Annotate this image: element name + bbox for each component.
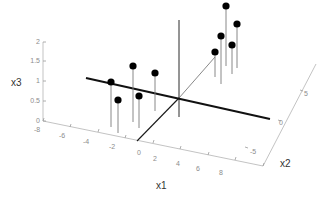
x2-axis <box>263 64 316 166</box>
stem-point <box>107 78 114 127</box>
stem-marker <box>233 20 240 27</box>
stem-marker <box>114 96 121 103</box>
svg-text:-8: -8 <box>34 126 40 133</box>
stem-marker <box>222 2 229 9</box>
x2-label: x2 <box>280 158 291 169</box>
svg-text:-4: -4 <box>83 138 89 145</box>
x2-reference-line-front <box>137 98 179 141</box>
x1-tick-labels: -8 -6 -4 -2 0 2 4 6 8 <box>34 126 223 176</box>
stem-point <box>211 48 218 77</box>
x3-tick-labels: 0 0.5 1 1.5 2 <box>30 38 40 124</box>
svg-text:0.5: 0.5 <box>30 97 40 104</box>
stem-point <box>151 69 158 111</box>
x3-ticks <box>43 42 46 121</box>
x2-tick-labels: -5 0 5 <box>250 90 308 155</box>
svg-text:1.5: 1.5 <box>30 57 40 64</box>
svg-text:-5: -5 <box>250 148 256 155</box>
svg-text:8: 8 <box>219 169 223 176</box>
stem3-plot: 0 0.5 1 1.5 2 -8 -6 -4 -2 0 2 4 6 <box>0 0 320 197</box>
stem-marker <box>217 32 224 39</box>
svg-text:-2: -2 <box>109 143 115 150</box>
stem-point <box>217 32 224 84</box>
svg-text:2: 2 <box>36 38 40 45</box>
svg-text:0: 0 <box>36 117 40 124</box>
svg-text:5: 5 <box>304 90 308 97</box>
stem-point <box>135 92 142 128</box>
stem-marker <box>151 69 158 76</box>
svg-text:2: 2 <box>153 155 157 162</box>
svg-text:0: 0 <box>137 149 141 156</box>
stem-point <box>114 96 121 133</box>
axes-box: 0 0.5 1 1.5 2 -8 -6 -4 -2 0 2 4 6 <box>30 38 316 176</box>
stem-point <box>228 41 235 74</box>
svg-text:-6: -6 <box>59 132 65 139</box>
stem-point <box>129 62 136 122</box>
x2-ticks <box>245 90 303 148</box>
svg-text:1: 1 <box>36 77 40 84</box>
x1-label: x1 <box>156 180 167 191</box>
stem-marker <box>211 48 218 55</box>
stem-marker <box>129 62 136 69</box>
x3-label: x3 <box>11 77 22 88</box>
svg-text:4: 4 <box>176 160 180 167</box>
stem-markers <box>107 2 240 133</box>
svg-text:0: 0 <box>279 119 283 126</box>
svg-text:6: 6 <box>196 165 200 172</box>
stem-marker <box>135 92 142 99</box>
stem-marker <box>228 41 235 48</box>
x2-reference-line-back <box>179 57 215 98</box>
stem-marker <box>107 78 114 85</box>
